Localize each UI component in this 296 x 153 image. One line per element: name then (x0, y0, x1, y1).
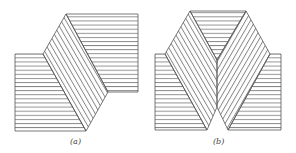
figure-a-label: (a) (70, 137, 81, 146)
figure-a (15, 14, 138, 131)
hatch-diagram (0, 0, 296, 153)
figure-b (155, 11, 281, 130)
figure-b-label: (b) (213, 137, 224, 146)
